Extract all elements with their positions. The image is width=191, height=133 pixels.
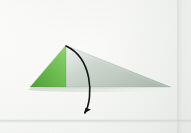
paper-grain-texture [0, 0, 191, 133]
origami-instruction-photo [0, 0, 191, 133]
